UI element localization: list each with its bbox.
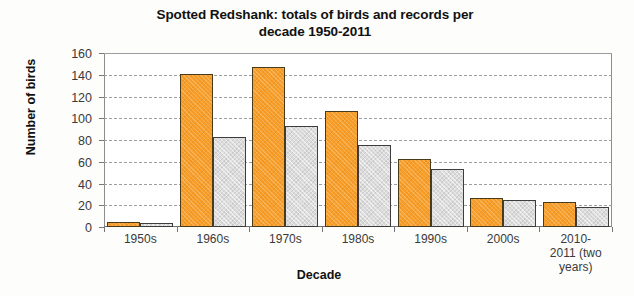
bar-birds <box>470 198 503 227</box>
bar-group <box>177 53 250 227</box>
x-axis-label-line: 1950s <box>124 232 157 246</box>
bar-group <box>539 53 612 227</box>
bar-group <box>104 53 177 227</box>
bar-birds <box>398 159 431 228</box>
y-tick-label-100: 100 <box>71 112 92 126</box>
bar-birds <box>107 222 140 227</box>
bar-birds <box>543 202 576 227</box>
bar-records <box>213 137 246 227</box>
bar-records <box>503 200 536 227</box>
bar-records <box>140 223 173 227</box>
bar-records <box>358 145 391 227</box>
chart-title: Spotted Redshank: totals of birds and re… <box>72 6 558 40</box>
x-axis-label-line: years) <box>559 260 592 274</box>
y-axis-title: Number of birds <box>24 32 38 182</box>
y-tick-label-0: 0 <box>85 221 92 235</box>
x-axis-label-line: 1960s <box>197 232 230 246</box>
plot-area: 160140120100806040200 <box>104 53 612 227</box>
bar-records <box>285 126 318 227</box>
bar-records <box>576 207 609 227</box>
x-axis-label-line: 1970s <box>269 232 302 246</box>
bar-records <box>431 169 464 227</box>
x-axis-label-2010-2011-two-years-: 2010-2011 (twoyears) <box>539 232 612 274</box>
bar-birds <box>252 67 285 227</box>
chart-page: Spotted Redshank: totals of birds and re… <box>0 0 634 296</box>
bar-group <box>394 53 467 227</box>
x-axis-label-line: 1990s <box>414 232 447 246</box>
x-axis-label-line: 2000s <box>487 232 520 246</box>
x-axis-label-line: 2010- <box>560 232 591 246</box>
bar-birds <box>180 74 213 227</box>
x-axis-label-line: 1980s <box>342 232 375 246</box>
y-tick-label-60: 60 <box>78 156 92 170</box>
chart-title-line-2: decade 1950-2011 <box>259 24 372 39</box>
bar-group <box>467 53 540 227</box>
x-tick <box>612 227 613 232</box>
chart-title-line-1: Spotted Redshank: totals of birds and re… <box>157 7 474 22</box>
x-axis-label-line: 2011 (two <box>550 246 602 260</box>
x-axis-title: Decade <box>104 268 534 282</box>
y-tick-label-80: 80 <box>78 134 92 148</box>
y-tick-label-120: 120 <box>71 91 92 105</box>
y-tick-label-20: 20 <box>78 199 92 213</box>
y-tick-label-160: 160 <box>71 47 92 61</box>
bar-birds <box>325 111 358 227</box>
bar-group <box>322 53 395 227</box>
y-tick-label-40: 40 <box>78 178 92 192</box>
bar-groups <box>104 53 612 227</box>
bar-group <box>249 53 322 227</box>
y-tick-label-140: 140 <box>71 69 92 83</box>
